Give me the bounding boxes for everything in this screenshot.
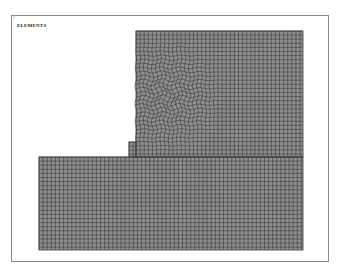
element-mesh xyxy=(0,0,338,270)
notch-block xyxy=(129,142,136,157)
lower-block xyxy=(39,157,303,250)
upper-block xyxy=(136,31,303,157)
mesh-line xyxy=(135,87,136,89)
mesh-line xyxy=(135,105,136,107)
